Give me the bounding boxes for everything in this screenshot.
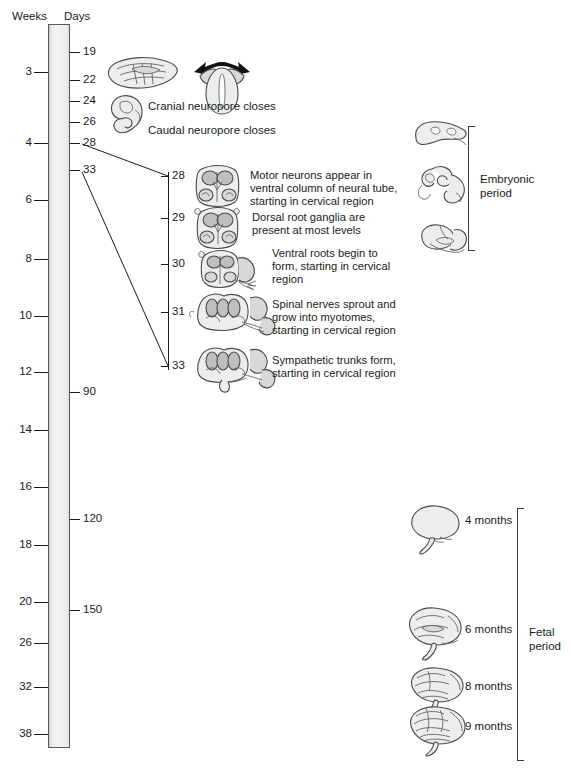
detail-tick [161, 218, 169, 219]
brain-stage-label: 4 months [465, 514, 512, 526]
detail-day-label: 33 [172, 359, 185, 371]
ventral-roots-day30-drawing [190, 248, 262, 292]
brain-stage-label: 8 months [465, 680, 512, 692]
event-desc-line: starting in cervical region [272, 324, 396, 337]
brain-9months-drawing [404, 704, 472, 756]
event-desc-line: Ventral roots begin to [272, 247, 390, 260]
event-desc-line: Dorsal root ganglia are [252, 211, 365, 224]
event-desc-day30: Ventral roots begin to form, starting in… [272, 247, 390, 287]
fetal-period-bracket [517, 508, 524, 761]
detail-tick [161, 176, 169, 177]
detail-tick [161, 366, 169, 367]
event-desc-line: ventral column of neural tube, [250, 182, 397, 195]
detail-tick [161, 312, 169, 313]
brain-6months-drawing [402, 604, 468, 660]
brain-stage-label: 6 months [465, 623, 512, 635]
fetal-period-label: Fetal period [529, 626, 561, 653]
event-desc-day28: Motor neurons appear in ventral column o… [250, 169, 397, 209]
event-desc-line: form, starting in cervical [272, 260, 390, 273]
timeline-figure: Weeks Days 3468101214161820263238 192224… [0, 0, 571, 778]
brain-stage-label: 9 months [465, 720, 512, 732]
event-desc-day33: Sympathetic trunks form, starting in cer… [272, 354, 396, 380]
fetal-period-line2: period [529, 640, 561, 654]
detail-day-label: 29 [172, 211, 185, 223]
brain-4months-drawing [404, 501, 464, 555]
detail-tick [161, 264, 169, 265]
fetal-period-line1: Fetal [529, 626, 561, 640]
event-desc-line: starting in cervical region [272, 367, 396, 380]
event-desc-line: Motor neurons appear in [250, 169, 397, 182]
embryonic-period-line2: period [480, 187, 534, 201]
sympathetic-trunks-day33-drawing [186, 346, 282, 394]
detail-axis-line [168, 172, 169, 370]
leader-lines [0, 0, 571, 778]
detail-day-label: 28 [172, 169, 185, 181]
embryo-stage2-drawing [412, 163, 470, 207]
neural-tube-day28-drawing [192, 164, 242, 208]
detail-day-label: 30 [172, 257, 185, 269]
embryonic-period-label: Embryonic period [480, 173, 534, 200]
spinal-nerves-day31-drawing [186, 292, 282, 338]
event-desc-line: starting in cervical region [250, 195, 397, 208]
detail-day-label: 31 [172, 305, 185, 317]
embryonic-period-bracket [468, 126, 475, 251]
embryo-stage1-drawing [410, 118, 472, 150]
neural-tube-day29-drawing [188, 206, 246, 250]
event-desc-line: region [272, 273, 390, 286]
embryonic-period-line1: Embryonic [480, 173, 534, 187]
event-desc-line: present at most levels [252, 224, 365, 237]
event-desc-day31: Spinal nerves sprout and grow into myoto… [272, 298, 396, 338]
event-desc-day29: Dorsal root ganglia are present at most … [252, 211, 365, 237]
event-desc-line: Spinal nerves sprout and [272, 298, 396, 311]
event-desc-line: Sympathetic trunks form, [272, 354, 396, 367]
embryo-stage3-drawing [414, 222, 472, 256]
event-desc-line: grow into myotomes, [272, 311, 396, 324]
